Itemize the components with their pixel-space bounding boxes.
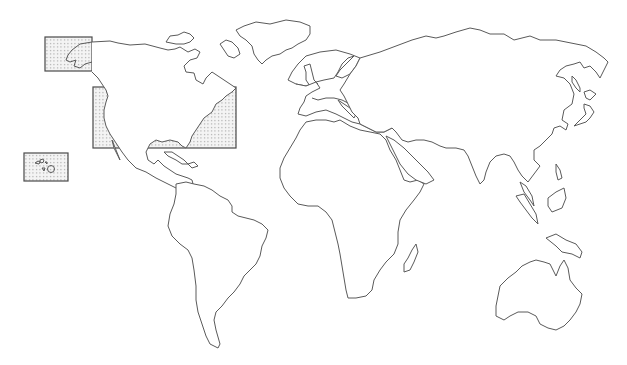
australia <box>496 260 582 330</box>
hispaniola <box>188 162 198 168</box>
japan <box>574 104 594 126</box>
cuba <box>164 152 188 164</box>
highlight-hawaii[interactable] <box>24 153 68 181</box>
greenland <box>236 20 310 64</box>
sumatra <box>516 194 538 224</box>
japan-north <box>584 90 596 100</box>
baffin-island <box>220 40 240 58</box>
new-guinea <box>546 234 582 258</box>
world-map-svg <box>0 0 627 365</box>
borneo <box>548 188 566 212</box>
arctic-islands <box>166 32 194 44</box>
philippines <box>556 164 562 180</box>
south-america <box>168 182 268 348</box>
sakhalin <box>572 76 580 92</box>
world-map <box>0 0 627 365</box>
madagascar <box>404 244 418 272</box>
